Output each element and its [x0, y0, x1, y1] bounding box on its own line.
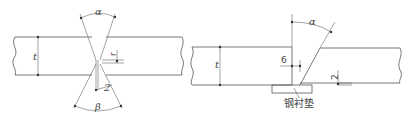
bevel-plate	[300, 48, 401, 85]
welding-joint-diagram: α β t r 2	[0, 0, 412, 121]
right-thickness-label: t	[215, 59, 220, 70]
offset-2-label: 2	[330, 74, 340, 80]
bevel-alpha-label: α	[309, 16, 316, 27]
beta-label: β	[94, 101, 101, 112]
stub-plate	[191, 47, 206, 85]
gap-6-label: 6	[281, 55, 287, 65]
left-figure: α β t r 2	[13, 6, 206, 112]
steel-backing-strip	[272, 85, 312, 93]
alpha-label: α	[95, 6, 102, 17]
gap-label: 2	[103, 82, 110, 93]
lower-groove-left	[74, 64, 96, 108]
left-plate	[13, 37, 92, 75]
root-face-label: r	[108, 52, 118, 56]
right-figure: α t 6 2 钢衬垫	[206, 14, 401, 109]
thickness-label: t	[33, 51, 38, 62]
backing-label: 钢衬垫	[284, 97, 314, 109]
